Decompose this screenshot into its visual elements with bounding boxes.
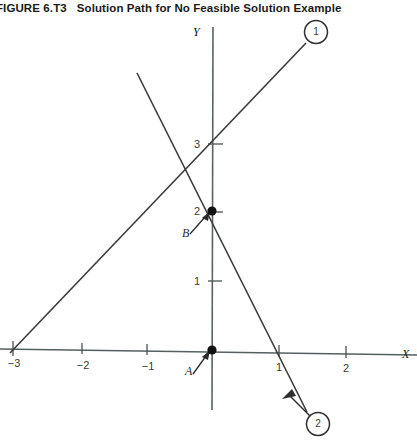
y-tick-label-3: 3 [190,138,204,150]
figure-container: FIGURE 6.T3Solution Path for No Feasible… [0,0,417,442]
y-axis-label: Y [193,25,200,40]
point-a-marker [207,345,216,354]
plot-area [0,0,417,442]
y-tick-label-2: 2 [190,205,204,217]
x-tick-label-2: 2 [339,362,353,374]
callout-label-2: 2 [306,412,330,436]
callout-label-1: 1 [304,20,328,44]
x-tick-label--1: −1 [137,360,159,372]
point-b-marker [207,206,216,215]
point-b-leader [190,217,205,234]
point-a-label: A [185,364,192,379]
y-tick-label-1: 1 [190,275,204,287]
callout-arrowhead-2 [282,389,296,399]
x-axis-label: X [402,347,409,362]
point-b-label: B [182,226,189,241]
x-tick-label--3: −3 [3,357,25,369]
constraint-line-1 [10,43,306,353]
x-tick-label-1: 1 [272,361,286,373]
point-a-leader [193,356,206,374]
x-tick-label--2: −2 [72,359,94,371]
